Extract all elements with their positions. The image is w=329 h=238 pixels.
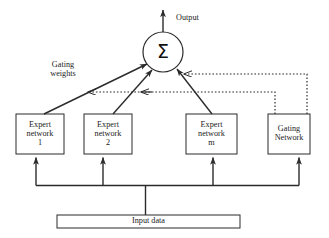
expert-network-m-box	[186, 114, 237, 154]
diagram-canvas: Σ Output Gating weights Expert network 1…	[0, 0, 329, 238]
expert-network-1-box	[16, 114, 64, 154]
summation-symbol: Σ	[143, 40, 183, 62]
expert-network-2-box	[84, 114, 132, 154]
gating-network-box	[268, 114, 310, 154]
expert-1-to-sum-arrow	[44, 64, 147, 114]
diagram-svg	[0, 0, 329, 238]
input-data-box	[57, 215, 240, 228]
gating-to-sum-dotted-line	[184, 74, 307, 114]
